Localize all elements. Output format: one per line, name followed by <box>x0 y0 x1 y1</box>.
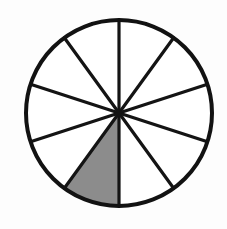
fraction-circle-figure: Circle divided into ten equal sectors wi… <box>0 0 227 229</box>
fraction-circle-diagram: Circle divided into ten equal sectors wi… <box>0 0 227 229</box>
